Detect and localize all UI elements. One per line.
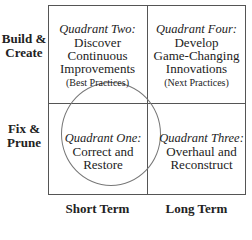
row-label-build-create: Build & Create xyxy=(0,32,48,60)
row-label-line: Prune xyxy=(0,136,48,150)
quadrant-subtitle: (Best Practices) xyxy=(48,76,147,89)
quadrant-two: Quadrant Two: Discover Continuous Improv… xyxy=(48,23,147,89)
column-label-short-term: Short Term xyxy=(48,201,147,217)
quadrant-text: Restore xyxy=(58,158,148,171)
row-label-fix-prune: Fix & Prune xyxy=(0,122,48,150)
quadrant-subtitle: (Next Practices) xyxy=(147,76,246,89)
quadrant-text: Innovations xyxy=(147,62,246,75)
row-label-line: Build & xyxy=(0,32,48,46)
quadrant-text: Reconstruct xyxy=(157,158,246,171)
row-label-line: Fix & xyxy=(0,122,48,136)
row-label-line: Create xyxy=(0,46,48,60)
quadrant-text: Improvements xyxy=(48,62,147,75)
column-label-long-term: Long Term xyxy=(147,201,246,217)
quadrant-four: Quadrant Four: Develop Game-Changing Inn… xyxy=(147,23,246,89)
quadrant-three: Quadrant Three: Overhaul and Reconstruct xyxy=(157,132,246,171)
quadrant-one: Quadrant One: Correct and Restore xyxy=(58,132,148,171)
